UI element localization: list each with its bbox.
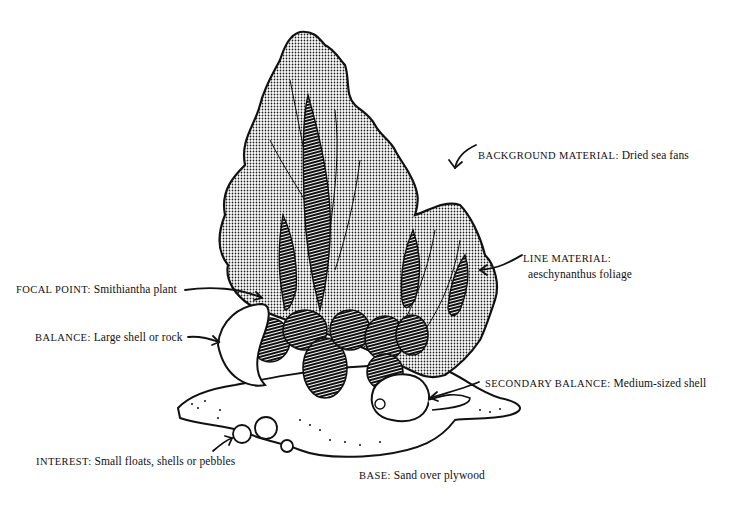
arrangement-illustration [0,0,731,507]
medium-shell [372,374,429,421]
large-shell [218,304,269,386]
label-background-material: BACKGROUND MATERIAL: Dried sea fans [478,150,689,162]
label-line-material-detail: aeschynanthus foliage [528,269,632,281]
label-base: BASE: Sand over plywood [359,470,485,482]
label-interest: INTEREST: Small floats, shells or pebble… [36,456,235,468]
label-focal-point: FOCAL POINT: Smithiantha plant [16,284,177,296]
label-secondary-balance: SECONDARY BALANCE: Medium-sized shell [485,378,706,390]
label-balance: BALANCE: Large shell or rock [35,332,183,344]
label-line-material: LINE MATERIAL: [523,253,611,265]
